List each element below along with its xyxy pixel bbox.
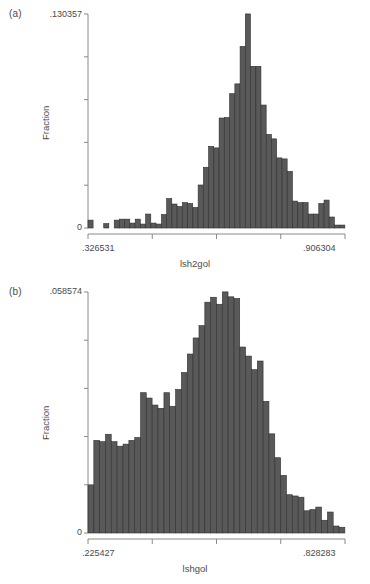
- bar-group: [88, 292, 345, 533]
- x-axis-title-a: lsh2gol: [155, 258, 235, 269]
- histogram-bar: [198, 185, 203, 228]
- histogram-bar: [172, 204, 177, 228]
- histogram-bar: [310, 510, 316, 533]
- histogram-bar: [203, 167, 208, 228]
- histogram-bar: [176, 389, 182, 533]
- histogram-bar: [269, 434, 275, 533]
- histogram-bar: [135, 219, 140, 228]
- histogram-bar: [230, 94, 235, 228]
- histogram-bar: [222, 292, 228, 533]
- histogram-bar: [245, 14, 250, 228]
- histogram-bar: [308, 214, 313, 228]
- histogram-bar: [129, 440, 135, 533]
- histogram-bar: [272, 139, 277, 228]
- histogram-bar: [125, 219, 130, 228]
- histogram-plot-b: [0, 280, 370, 584]
- histogram-bar: [209, 146, 214, 228]
- histogram-bar: [303, 203, 308, 228]
- histogram-bar: [340, 225, 345, 228]
- histogram-bar: [275, 458, 281, 533]
- histogram-bar: [164, 393, 170, 533]
- histogram-bar: [316, 507, 322, 533]
- x-axis-title-b: lshgol: [155, 563, 235, 574]
- histogram-bar: [287, 171, 292, 228]
- histogram-bar: [235, 84, 240, 228]
- histogram-bar: [228, 297, 234, 533]
- histogram-bar: [100, 442, 106, 533]
- histogram-bar: [214, 148, 219, 228]
- histogram-bar: [256, 66, 261, 228]
- x-axis-min-label-b: .225427: [82, 548, 115, 558]
- histogram-bar: [158, 408, 164, 533]
- histogram-bar: [339, 527, 345, 533]
- histogram-bar: [161, 215, 166, 228]
- histogram-bar: [205, 302, 211, 533]
- histogram-bar: [329, 217, 334, 228]
- histogram-bar: [251, 66, 256, 228]
- histogram-bar: [335, 225, 340, 228]
- histogram-bar: [104, 224, 109, 228]
- histogram-bar: [219, 118, 224, 228]
- histogram-bar: [135, 438, 141, 533]
- histogram-bar: [261, 105, 266, 228]
- histogram-bar: [130, 223, 135, 228]
- histogram-bar: [240, 347, 246, 533]
- histogram-bar: [277, 158, 282, 228]
- histogram-bar: [151, 223, 156, 228]
- x-axis-min-label-a: .326531: [82, 243, 115, 253]
- histogram-bar: [193, 207, 198, 228]
- histogram-bar: [188, 204, 193, 228]
- histogram-bar: [314, 214, 319, 228]
- histogram-bar: [224, 118, 229, 228]
- histogram-panel-b: (b) .058574 0 Fraction .225427 .828283 l…: [0, 280, 370, 584]
- histogram-bar: [88, 485, 94, 533]
- histogram-bar: [146, 214, 151, 228]
- histogram-bar: [114, 220, 119, 228]
- histogram-bar: [181, 373, 187, 533]
- histogram-panel-a: (a) .130357 0 Fraction .326531 .906304 l…: [0, 0, 370, 292]
- histogram-bar: [246, 356, 252, 533]
- histogram-bar: [298, 203, 303, 228]
- histogram-bar: [111, 442, 117, 533]
- histogram-bar: [167, 199, 172, 228]
- histogram-bar: [140, 224, 145, 228]
- histogram-bar: [319, 204, 324, 228]
- histogram-bar: [170, 406, 176, 533]
- histogram-bar: [211, 297, 217, 533]
- histogram-bar: [152, 405, 158, 533]
- x-axis-max-label-a: .906304: [303, 243, 336, 253]
- histogram-bar: [322, 520, 328, 533]
- histogram-bar: [117, 446, 123, 533]
- histogram-bar: [217, 304, 223, 533]
- histogram-bar: [88, 220, 93, 228]
- histogram-bar: [263, 401, 269, 533]
- histogram-bar: [193, 338, 199, 533]
- histogram-bar: [252, 370, 258, 533]
- x-axis-max-label-b: .828283: [303, 548, 336, 558]
- histogram-bar: [304, 511, 310, 533]
- histogram-bar: [282, 159, 287, 228]
- histogram-bar: [94, 440, 100, 533]
- histogram-bar: [240, 46, 245, 228]
- histogram-bar: [187, 354, 193, 533]
- histogram-bar: [177, 206, 182, 228]
- histogram-bar: [292, 496, 298, 533]
- histogram-bar: [257, 361, 263, 533]
- histogram-bar: [324, 200, 329, 228]
- histogram-bar: [156, 224, 161, 228]
- histogram-bar: [293, 201, 298, 228]
- histogram-bar: [106, 434, 112, 533]
- histogram-bar: [234, 298, 240, 533]
- histogram-bar: [123, 444, 129, 533]
- histogram-bar: [281, 475, 287, 533]
- histogram-bar: [182, 203, 187, 228]
- histogram-bar: [141, 393, 147, 533]
- histogram-bar: [146, 398, 152, 533]
- histogram-bar: [119, 219, 124, 228]
- histogram-bar: [266, 134, 271, 228]
- histogram-bar: [199, 326, 205, 533]
- histogram-bar: [287, 495, 293, 533]
- histogram-bar: [298, 497, 304, 533]
- bar-group: [88, 14, 345, 228]
- histogram-bar: [333, 526, 339, 533]
